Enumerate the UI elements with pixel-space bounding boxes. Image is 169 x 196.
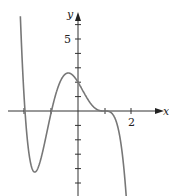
y-axis-label: y [66, 8, 74, 21]
x-axis-label: x [163, 105, 169, 118]
function-curve [20, 16, 126, 196]
x-axis: 2 x [8, 105, 169, 129]
function-graph: 2 x 5 y [0, 0, 169, 196]
y-axis-arrow-icon [75, 12, 81, 21]
y-axis: 5 y [64, 8, 81, 196]
x-tick-label-2: 2 [128, 116, 135, 129]
y-tick-label-5: 5 [64, 33, 71, 46]
